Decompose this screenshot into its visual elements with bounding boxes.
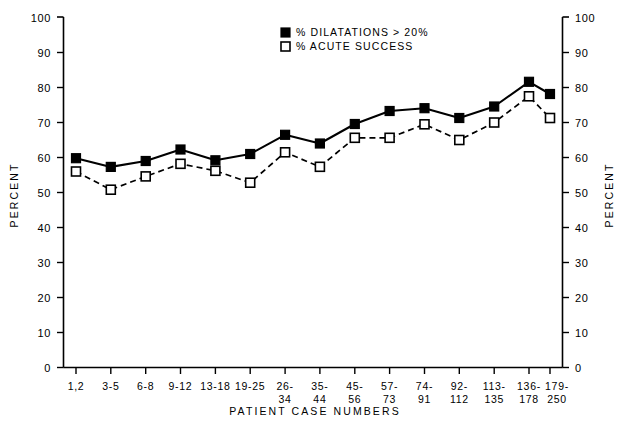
data-point-dilatations (455, 114, 464, 123)
x-tick-label-line2: 250 (547, 393, 567, 405)
y-tick-label-left: 20 (38, 292, 51, 304)
x-tick-label: 113- (483, 380, 506, 392)
x-axis-title: PATIENT CASE NUMBERS (229, 405, 401, 417)
y-tick-label-left: 60 (38, 152, 51, 164)
x-tick-label-line2: 44 (313, 393, 326, 405)
data-point-dilatations (106, 162, 115, 171)
data-point-acute-success (141, 172, 150, 181)
x-tick-label-line2: 135 (484, 393, 504, 405)
chart-svg: 0 10 20 30 40 50 60 70 80 90 100 0 (0, 0, 623, 424)
data-point-acute-success (385, 133, 394, 142)
data-point-acute-success (420, 120, 429, 129)
axes-frame (57, 17, 569, 368)
data-point-acute-success (315, 162, 324, 171)
y-tick-label-left: 0 (44, 362, 51, 374)
x-tick-label: 26- (276, 380, 293, 392)
y-tick-label-left: 90 (38, 47, 51, 59)
data-point-acute-success (350, 133, 359, 142)
y-axis-left-ticks: 0 10 20 30 40 50 60 70 80 90 100 (31, 12, 64, 374)
data-point-acute-success (281, 148, 290, 157)
x-tick-label-line2: 112 (450, 393, 469, 405)
y-tick-label-right: 40 (575, 222, 588, 234)
y-tick-label-left: 10 (38, 327, 51, 339)
x-tick-label: 19-25 (235, 380, 265, 392)
data-point-dilatations (141, 157, 150, 166)
data-point-dilatations (246, 150, 255, 159)
x-tick-label: 57- (381, 380, 398, 392)
y-tick-label-left: 40 (38, 222, 51, 234)
x-tick-label: 13-18 (200, 380, 230, 392)
x-tick-label-line2: 91 (418, 393, 431, 405)
x-tick-label: 1,2 (68, 380, 85, 392)
x-tick-label: 45- (346, 380, 363, 392)
y-tick-label-right: 90 (575, 47, 588, 59)
data-point-acute-success (211, 166, 220, 175)
y-axis-right-ticks: 0 10 20 30 40 50 60 70 80 90 100 (563, 12, 596, 374)
data-point-acute-success (72, 167, 81, 176)
data-point-acute-success (106, 185, 115, 194)
y-tick-label-right: 80 (575, 82, 588, 94)
y-axis-title-right: PERCENT (603, 163, 615, 228)
y-tick-label-left: 50 (38, 187, 51, 199)
legend-marker-filled-square-icon (281, 28, 290, 37)
data-point-dilatations (72, 154, 81, 163)
data-point-acute-success (490, 118, 499, 127)
x-tick-label: 3-5 (102, 380, 119, 392)
x-axis-labels: 1,2 3-5 6-8 9-12 13-18 19-25 26- 34 35- … (68, 380, 569, 405)
data-point-dilatations (546, 90, 555, 99)
data-point-dilatations (525, 77, 534, 86)
x-tick-label: 179- (545, 380, 569, 392)
data-point-dilatations (420, 104, 429, 113)
data-point-dilatations (490, 102, 499, 111)
data-point-dilatations (176, 145, 185, 154)
legend-label-dilatations: % DILATATIONS > 20% (296, 26, 429, 38)
y-tick-label-right: 10 (575, 327, 588, 339)
y-tick-label-left: 100 (31, 12, 51, 24)
chart-figure: 0 10 20 30 40 50 60 70 80 90 100 0 (0, 0, 623, 424)
x-tick-label-line2: 34 (279, 393, 292, 405)
x-tick-label-line2: 56 (348, 393, 361, 405)
legend-label-acute-success: % ACUTE SUCCESS (296, 40, 413, 52)
legend-marker-open-square-icon (281, 42, 290, 51)
y-tick-label-left: 30 (38, 257, 51, 269)
data-point-acute-success (546, 114, 555, 123)
y-tick-label-right: 50 (575, 187, 588, 199)
y-axis-title-left: PERCENT (8, 163, 20, 228)
x-tick-label: 92- (451, 380, 468, 392)
data-point-dilatations (211, 156, 220, 165)
data-point-dilatations (315, 139, 324, 148)
x-tick-label: 35- (311, 380, 328, 392)
x-tick-label: 6-8 (137, 380, 154, 392)
y-tick-label-right: 70 (575, 117, 588, 129)
y-tick-label-right: 0 (575, 362, 582, 374)
data-point-acute-success (455, 136, 464, 145)
x-tick-label-line2: 73 (383, 393, 396, 405)
data-point-dilatations (385, 107, 394, 116)
data-point-acute-success (176, 159, 185, 168)
x-axis-ticks (76, 368, 550, 375)
y-tick-label-left: 70 (38, 117, 51, 129)
y-tick-label-right: 30 (575, 257, 588, 269)
data-point-acute-success (246, 178, 255, 187)
x-tick-label: 9-12 (169, 380, 193, 392)
y-tick-label-right: 60 (575, 152, 588, 164)
series-line-dilatations (76, 82, 550, 167)
data-point-dilatations (350, 120, 359, 129)
x-tick-label-line2: 178 (519, 393, 539, 405)
data-point-dilatations (281, 130, 290, 139)
x-tick-label: 136- (517, 380, 541, 392)
y-tick-label-right: 100 (575, 12, 595, 24)
data-point-acute-success (525, 92, 534, 101)
x-tick-label: 74- (416, 380, 433, 392)
y-tick-label-left: 80 (38, 82, 51, 94)
y-tick-label-right: 20 (575, 292, 588, 304)
series-acute-success (72, 92, 555, 194)
chart-legend: % DILATATIONS > 20% % ACUTE SUCCESS (281, 26, 429, 52)
series-dilatations (72, 77, 555, 171)
